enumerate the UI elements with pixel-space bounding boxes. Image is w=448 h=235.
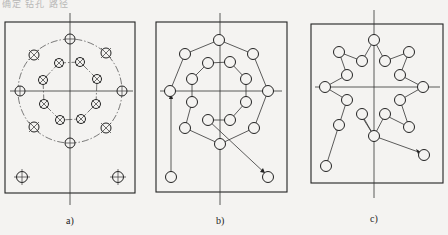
hole — [110, 169, 126, 185]
hole — [101, 123, 111, 133]
hole — [15, 86, 25, 96]
holes — [165, 35, 274, 183]
hole — [29, 50, 39, 60]
hole — [76, 58, 85, 67]
holes — [320, 35, 430, 172]
hole — [29, 122, 39, 132]
path-segment — [326, 125, 339, 166]
hole — [40, 100, 49, 109]
drilling-diagram: a) b) c) — [0, 0, 448, 235]
panel-c — [311, 10, 443, 198]
hole — [39, 76, 48, 85]
hole — [93, 75, 102, 84]
hole — [65, 138, 75, 148]
hole — [101, 48, 111, 58]
panel-b-label: b) — [216, 215, 224, 227]
drill-path — [170, 40, 268, 176]
hole — [55, 59, 64, 68]
panel-b-frame — [156, 22, 287, 192]
panel-c-label: c) — [370, 213, 378, 225]
hole — [65, 34, 75, 44]
hole — [56, 116, 65, 125]
hole — [14, 169, 30, 185]
hole — [117, 86, 127, 96]
hole — [92, 100, 101, 109]
hole — [77, 115, 86, 124]
panel-a-label: a) — [66, 215, 74, 227]
panel-a — [5, 13, 135, 205]
panel-b — [156, 13, 287, 205]
